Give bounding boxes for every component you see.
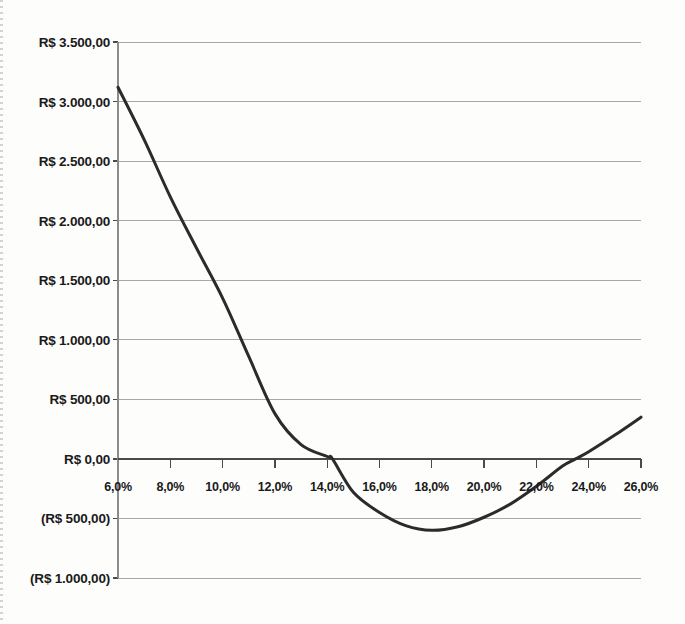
y-axis-tick-label: R$ 2.500,00	[14, 154, 110, 169]
y-axis-tick-label: (R$ 500,00)	[14, 511, 110, 526]
x-axis-tick-label: 14,0%	[299, 480, 355, 494]
x-axis-tick-label: 24,0%	[561, 480, 617, 494]
x-axis-tick-label: 22,0%	[508, 480, 564, 494]
x-axis-tick-label: 20,0%	[456, 480, 512, 494]
x-axis-tick-label: 12,0%	[247, 480, 303, 494]
y-axis-tick-label: R$ 1.500,00	[14, 273, 110, 288]
x-axis-tick-label: 16,0%	[352, 480, 408, 494]
x-axis-tick-label: 6,0%	[90, 480, 146, 494]
y-axis-tick-label: R$ 1.000,00	[14, 332, 110, 347]
x-axis-tick-label: 26,0%	[613, 480, 669, 494]
y-axis-ticks-group	[113, 42, 118, 578]
y-axis-tick-label: R$ 2.000,00	[14, 213, 110, 228]
x-axis-tick-label: 18,0%	[404, 480, 460, 494]
y-axis-tick-label: R$ 3.000,00	[14, 94, 110, 109]
x-axis-tick-label: 8,0%	[142, 480, 198, 494]
y-axis-tick-label: (R$ 1.000,00)	[14, 571, 110, 586]
y-axis-tick-label: R$ 3.500,00	[14, 35, 110, 50]
gridlines-group	[118, 42, 641, 578]
chart-container: R$ 3.500,00R$ 3.000,00R$ 2.500,00R$ 2.00…	[0, 0, 685, 624]
x-axis-tick-label: 10,0%	[195, 480, 251, 494]
y-axis-tick-label: R$ 0,00	[14, 451, 110, 466]
y-axis-tick-label: R$ 500,00	[14, 392, 110, 407]
